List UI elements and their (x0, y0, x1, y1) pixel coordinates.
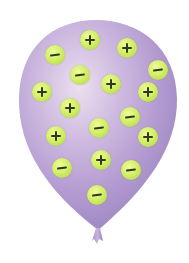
balloon-knot (92, 228, 103, 244)
negative-charge-icon (121, 160, 141, 180)
positive-charge-icon (60, 98, 80, 118)
sign-bar-vertical (147, 87, 149, 97)
negative-charge-icon (45, 45, 65, 65)
positive-charge-icon (46, 126, 66, 146)
sign-bar-horizontal (125, 115, 135, 119)
positive-charge-icon (80, 30, 100, 50)
negative-charge-icon (70, 65, 90, 85)
sign-bar-vertical (55, 131, 57, 141)
sign-bar-vertical (100, 155, 102, 165)
sign-bar-vertical (69, 103, 71, 113)
negative-charge-icon (89, 118, 109, 138)
sign-bar-horizontal (126, 168, 136, 172)
sign-bar-horizontal (57, 166, 67, 170)
sign-bar-vertical (41, 87, 43, 97)
sign-bar-horizontal (94, 126, 104, 130)
sign-bar-horizontal (50, 53, 60, 57)
sign-bar-horizontal (75, 73, 85, 77)
sign-bar-vertical (147, 132, 149, 142)
negative-charge-icon (52, 158, 72, 178)
positive-charge-icon (91, 150, 111, 170)
positive-charge-icon (32, 82, 52, 102)
positive-charge-icon (138, 82, 158, 102)
sign-bar-horizontal (92, 193, 102, 197)
negative-charge-icon (120, 107, 140, 127)
sign-bar-vertical (110, 79, 112, 89)
sign-bar-vertical (89, 35, 91, 45)
positive-charge-icon (138, 127, 158, 147)
positive-charge-icon (101, 74, 121, 94)
negative-charge-icon (148, 60, 168, 80)
positive-charge-icon (117, 38, 137, 58)
sign-bar-horizontal (153, 68, 163, 72)
sign-bar-vertical (126, 43, 128, 53)
balloon-diagram (0, 0, 189, 263)
negative-charge-icon (87, 185, 107, 205)
